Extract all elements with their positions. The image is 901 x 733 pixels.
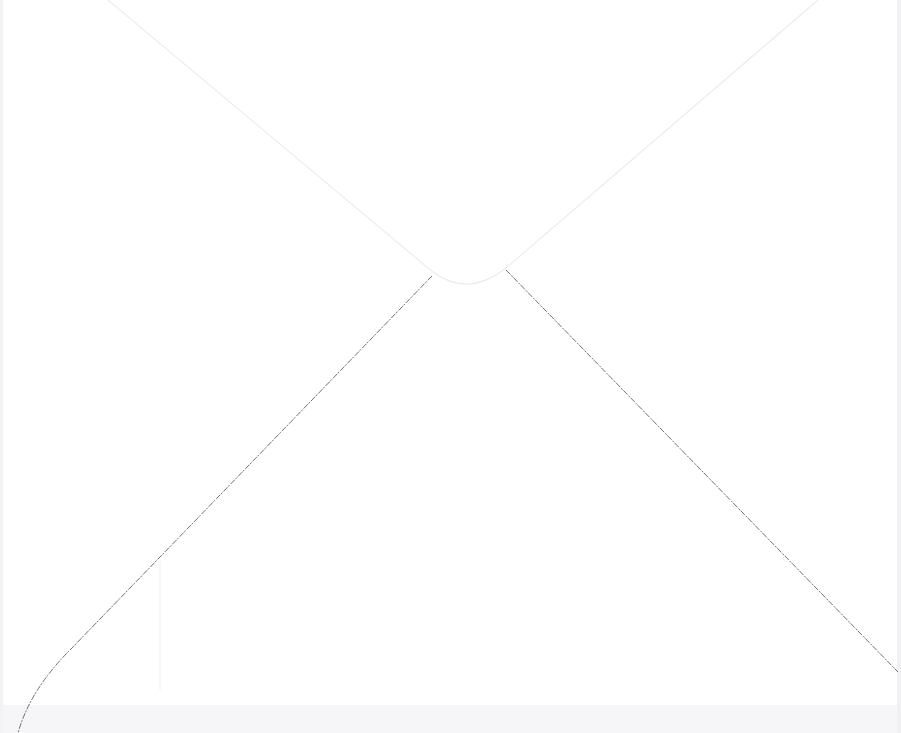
envelope-paper — [0, 0, 901, 733]
envelope-back — [0, 0, 901, 733]
envelope-photo — [0, 0, 901, 733]
right-edge — [897, 0, 901, 733]
bottom-shadow — [0, 705, 901, 733]
left-edge — [0, 0, 3, 733]
